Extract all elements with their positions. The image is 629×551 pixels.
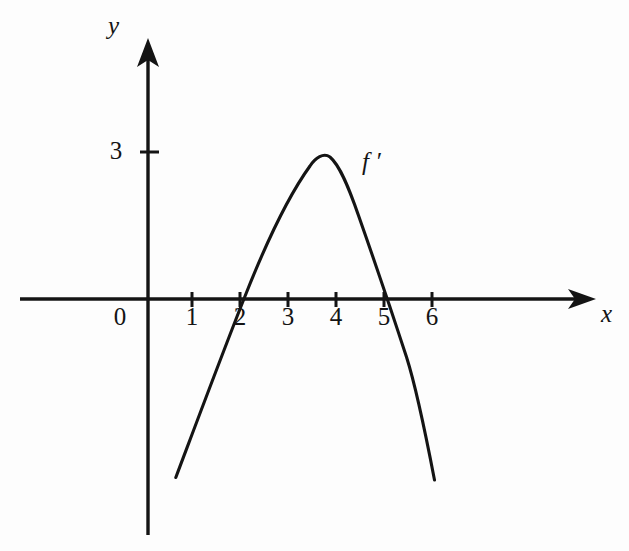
x-axis-label: x <box>601 300 612 328</box>
x-tick-label-5: 5 <box>372 303 396 331</box>
y-tick-label-3: 3 <box>104 137 128 165</box>
x-tick-label-4: 4 <box>324 303 348 331</box>
x-tick-label-6: 6 <box>420 303 444 331</box>
x-tick-label-1: 1 <box>180 303 204 331</box>
origin-tick-label: 0 <box>108 303 132 331</box>
graph-figure: y x f ′ 0 1 2 3 4 5 6 3 <box>0 0 629 551</box>
y-axis-label: y <box>108 12 119 40</box>
x-tick-label-2: 2 <box>228 303 252 331</box>
coordinate-plane-svg <box>0 0 629 551</box>
curve-label-f-prime: f ′ <box>362 148 381 176</box>
x-tick-label-3: 3 <box>276 303 300 331</box>
